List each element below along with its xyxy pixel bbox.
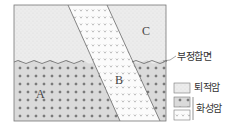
label-c: C <box>142 25 150 37</box>
label-b: B <box>115 74 123 86</box>
legend-swatch-sedimentary <box>174 83 190 93</box>
label-a: A <box>36 88 45 100</box>
legend-swatch-igneous-plus <box>174 97 190 107</box>
legend-label-sedimentary: 퇴적암 <box>194 83 220 93</box>
legend-swatch-igneous-vee <box>174 110 190 120</box>
legend-label-igneous: 화성암 <box>196 104 222 114</box>
unconformity-label: 부정합면 <box>177 52 212 62</box>
